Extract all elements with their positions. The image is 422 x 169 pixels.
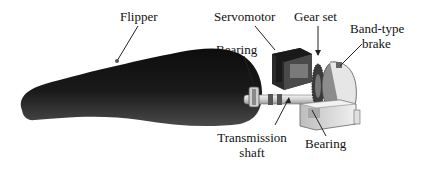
bearing-left xyxy=(249,87,259,107)
label-bearing-bottom: Bearing xyxy=(305,137,346,150)
label-band-brake-line1: Band-type xyxy=(350,22,404,35)
diagram-canvas: Flipper Servomotor Gear set Band-type br… xyxy=(0,0,422,169)
label-gear-set: Gear set xyxy=(294,10,337,23)
leader-flipper xyxy=(117,26,138,61)
flipper xyxy=(21,48,262,126)
label-band-brake-line2: brake xyxy=(362,37,391,50)
leader-band-brake xyxy=(340,44,362,66)
label-transmission-line2: shaft xyxy=(214,146,290,159)
label-transmission-line1: Transmission xyxy=(214,131,290,144)
bearing-base-housing xyxy=(300,100,360,130)
servomotor xyxy=(272,48,312,90)
label-flipper: Flipper xyxy=(120,10,158,23)
label-bearing-top: Bearing xyxy=(216,43,257,56)
leader-servomotor xyxy=(255,26,275,50)
label-servomotor: Servomotor xyxy=(214,10,275,23)
